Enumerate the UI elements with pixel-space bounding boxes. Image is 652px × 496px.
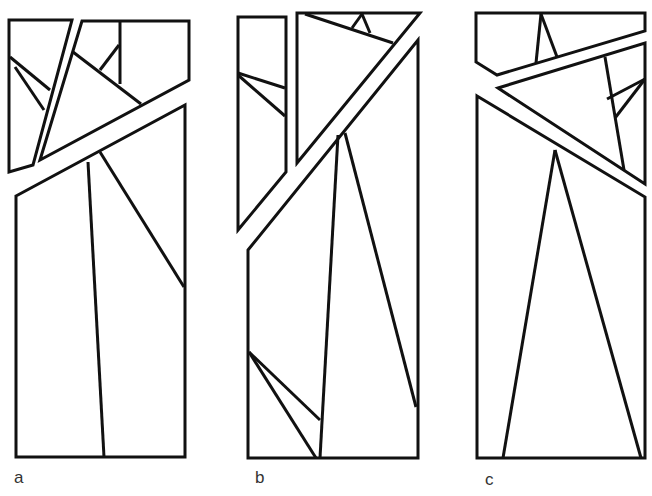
panel-c [476,13,645,458]
panel-a [9,20,189,457]
panel-label-c: c [485,470,494,490]
stained-glass-diagram [0,0,652,496]
glass-piece-b-0 [238,17,286,230]
panel-b [238,13,420,458]
panel-label-a: a [14,468,23,488]
panel-label-b: b [255,468,264,488]
